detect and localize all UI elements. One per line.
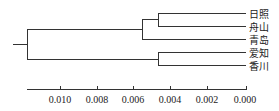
x-tick-label: 0.004 <box>159 94 182 105</box>
x-tick-label: 0.000 <box>234 94 257 105</box>
x-tick-label: 0.006 <box>122 94 145 105</box>
x-axis: 0.010 0.008 0.006 0.004 0.002 0.000 <box>27 86 256 105</box>
leaf-label-rizhao: 日照 <box>249 9 269 20</box>
leaf-label-kagawa: 香川 <box>249 61 269 72</box>
x-tick-label: 0.008 <box>86 94 109 105</box>
x-tick-label: 0.002 <box>196 94 219 105</box>
leaf-label-aichi: 爱知 <box>249 47 269 59</box>
x-tick-label: 0.010 <box>49 94 72 105</box>
leaf-labels: 日照 舟山 青岛 爱知 香川 <box>249 9 269 72</box>
dendrogram-chart: 日照 舟山 青岛 爱知 香川 0.010 0.008 0.006 0.004 0… <box>0 0 279 111</box>
dendrogram-branches <box>13 13 246 66</box>
leaf-label-qingdao: 青岛 <box>249 34 269 46</box>
leaf-label-zhoushan: 舟山 <box>249 21 269 33</box>
